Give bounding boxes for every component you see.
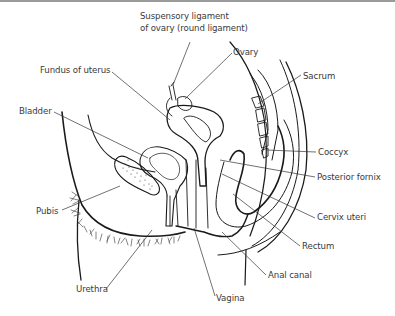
suspensory-ligament: [169, 82, 176, 100]
label-bladder: Bladder: [19, 106, 52, 117]
label-suspensory-ligament-line2: of ovary (round ligament): [140, 23, 248, 34]
bladder: [140, 147, 188, 226]
bladder-lining: [150, 153, 180, 179]
label-anal-canal: Anal canal: [268, 270, 312, 281]
label-fundus-of-uterus: Fundus of uterus: [40, 65, 110, 76]
inner-abdominal-line: [88, 115, 155, 172]
pubis-bone: [115, 156, 160, 195]
label-coccyx: Coccyx: [318, 147, 348, 158]
label-posterior-fornix: Posterior fornix: [317, 172, 381, 183]
uterus: [167, 105, 223, 186]
label-suspensory-ligament-line1: Suspensory ligament: [140, 11, 229, 22]
label-ovary: Ovary: [233, 47, 258, 58]
urethra: [170, 190, 178, 226]
label-cervix-uteri: Cervix uteri: [317, 212, 366, 223]
label-rectum: Rectum: [302, 241, 334, 252]
label-vagina: Vagina: [216, 293, 244, 304]
label-urethra: Urethra: [76, 284, 108, 295]
uterine-cavity: [184, 116, 211, 142]
leader-lines: [54, 42, 316, 296]
label-sacrum: Sacrum: [303, 71, 335, 82]
perineum: [176, 214, 248, 237]
label-pubis: Pubis: [36, 206, 58, 217]
pelvis-diagram: [0, 0, 395, 316]
